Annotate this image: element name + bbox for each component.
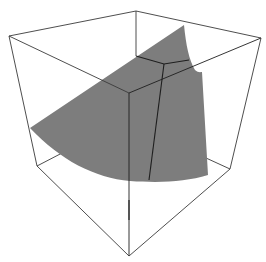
box-edge-top-right-back (136, 11, 261, 38)
plot-canvas (0, 0, 266, 262)
box-edge-right-vertical (230, 38, 261, 169)
3d-plot[interactable] (0, 0, 266, 262)
box-edge-bottom-left-front (37, 166, 129, 256)
box-edge-top-left-front (9, 36, 129, 93)
box-edge-left-vertical (9, 36, 37, 166)
box-edge-bottom-right-front (129, 169, 230, 256)
box-edge-top-left-back (9, 11, 136, 36)
box-edge-bottom-right-back (206, 158, 230, 169)
surface-patch (30, 25, 208, 182)
